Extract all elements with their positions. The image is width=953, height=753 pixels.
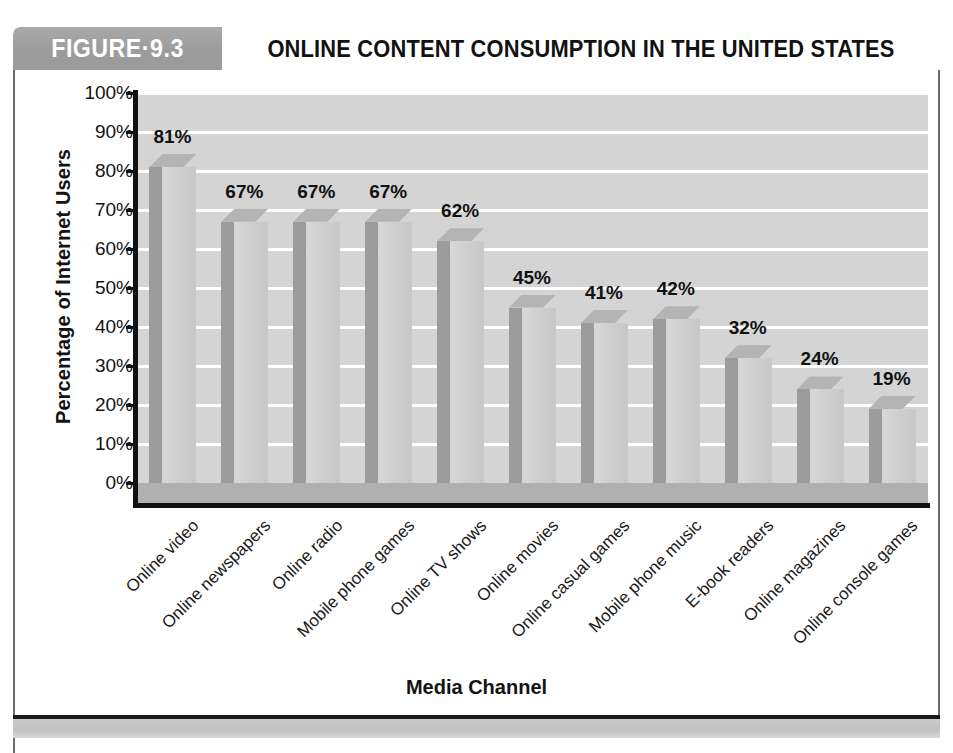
bar-top-face bbox=[221, 209, 268, 222]
bar-front-face bbox=[738, 358, 772, 483]
bar: 24% bbox=[797, 376, 844, 483]
bar-front-face bbox=[810, 389, 844, 483]
bar-value-label: 42% bbox=[639, 278, 713, 300]
y-axis-tick-labels: 100%90%80%70%60%50%40%30%20%10%0% bbox=[53, 70, 133, 715]
x-axis-title: Media Channel bbox=[13, 676, 940, 699]
bar-chart: Percentage of Internet Users 100%90%80%7… bbox=[13, 70, 940, 715]
bar-side-face bbox=[437, 241, 450, 483]
bar-value-label: 32% bbox=[711, 317, 785, 339]
bar-value-label: 67% bbox=[351, 181, 425, 203]
y-axis-tick-label: 0% bbox=[63, 472, 133, 494]
x-axis-category-labels: Online videoOnline newspapersOnline radi… bbox=[137, 510, 937, 690]
bar-side-face bbox=[221, 222, 234, 483]
x-axis-line bbox=[133, 503, 930, 508]
bar-value-label: 45% bbox=[495, 267, 569, 289]
bar-top-face bbox=[509, 295, 556, 308]
y-axis-tick-mark bbox=[126, 170, 134, 173]
y-axis-tick-label: 100% bbox=[63, 82, 133, 104]
bar: 32% bbox=[725, 345, 772, 483]
bar-top-face bbox=[437, 228, 484, 241]
bar-front-face bbox=[594, 323, 628, 483]
bar-front-face bbox=[666, 319, 700, 483]
bar-value-label: 19% bbox=[855, 368, 928, 390]
bar-top-face bbox=[149, 154, 196, 167]
bar: 67% bbox=[221, 209, 268, 483]
bar-value-label: 24% bbox=[783, 348, 857, 370]
x-axis-category-label: Online casual games bbox=[508, 516, 634, 642]
y-axis-tick-mark bbox=[126, 404, 134, 407]
bar-value-label: 67% bbox=[279, 181, 353, 203]
plot-floor bbox=[137, 483, 928, 505]
bar-top-face bbox=[725, 345, 772, 358]
y-axis-tick-mark bbox=[126, 287, 134, 290]
y-axis-tick-label: 70% bbox=[63, 199, 133, 221]
bar-top-face bbox=[581, 310, 628, 323]
y-axis-tick-label: 20% bbox=[63, 394, 133, 416]
figure-title: ONLINE CONTENT CONSUMPTION IN THE UNITED… bbox=[240, 27, 922, 70]
bar-front-face bbox=[378, 222, 412, 483]
y-axis-tick-mark bbox=[126, 443, 134, 446]
bar-front-face bbox=[450, 241, 484, 483]
bar: 62% bbox=[437, 228, 484, 483]
x-axis-category-label: Online radio bbox=[268, 516, 347, 595]
footer-band bbox=[13, 719, 940, 738]
bar-value-label: 41% bbox=[567, 282, 641, 304]
gridline bbox=[137, 131, 928, 134]
bar-side-face bbox=[149, 167, 162, 483]
bar-top-face bbox=[797, 376, 844, 389]
bar-side-face bbox=[869, 409, 882, 483]
bar-front-face bbox=[306, 222, 340, 483]
bar-side-face bbox=[797, 389, 810, 483]
y-axis-tick-mark bbox=[126, 92, 134, 95]
bar-value-label: 67% bbox=[207, 181, 281, 203]
bar-front-face bbox=[522, 308, 556, 484]
bar: 42% bbox=[653, 306, 700, 483]
footer-frame-tail bbox=[13, 738, 15, 753]
bar-side-face bbox=[365, 222, 378, 483]
y-axis-tick-label: 90% bbox=[63, 121, 133, 143]
gridline bbox=[137, 170, 928, 173]
bar: 41% bbox=[581, 310, 628, 483]
bar: 19% bbox=[869, 396, 916, 483]
y-axis-tick-mark bbox=[126, 131, 134, 134]
y-axis-tick-label: 10% bbox=[63, 433, 133, 455]
x-axis-category-label: Mobile phone games bbox=[293, 516, 419, 642]
plot-area: 81%67%67%67%62%45%41%42%32%24%19% bbox=[137, 93, 928, 505]
y-axis-tick-mark bbox=[126, 209, 134, 212]
bar-top-face bbox=[365, 209, 412, 222]
y-axis-tick-mark bbox=[126, 248, 134, 251]
figure-header: FIGURE·9.3 ONLINE CONTENT CONSUMPTION IN… bbox=[13, 27, 940, 70]
y-axis-tick-label: 30% bbox=[63, 355, 133, 377]
bar-side-face bbox=[293, 222, 306, 483]
y-axis-tick-mark bbox=[126, 326, 134, 329]
bar-side-face bbox=[653, 319, 666, 483]
y-axis-tick-mark bbox=[126, 365, 134, 368]
bar-top-face bbox=[869, 396, 916, 409]
bar: 81% bbox=[149, 154, 196, 483]
y-axis-tick-label: 60% bbox=[63, 238, 133, 260]
bar-front-face bbox=[234, 222, 268, 483]
gridline bbox=[137, 93, 928, 95]
y-axis-tick-label: 80% bbox=[63, 160, 133, 182]
figure-number-label: FIGURE·9.3 bbox=[20, 27, 214, 70]
bar-top-face bbox=[653, 306, 700, 319]
bar-front-face bbox=[882, 409, 916, 483]
bar-top-face bbox=[293, 209, 340, 222]
bar-side-face bbox=[509, 308, 522, 484]
bar: 67% bbox=[293, 209, 340, 483]
y-axis-tick-mark bbox=[126, 482, 134, 485]
x-axis-category-label: Online console games bbox=[789, 516, 922, 649]
bar-front-face bbox=[162, 167, 196, 483]
bar-value-label: 81% bbox=[137, 126, 209, 148]
bar: 45% bbox=[509, 295, 556, 484]
bar-value-label: 62% bbox=[423, 200, 497, 222]
bar-side-face bbox=[725, 358, 738, 483]
y-axis-tick-label: 50% bbox=[63, 277, 133, 299]
bar-side-face bbox=[581, 323, 594, 483]
bar: 67% bbox=[365, 209, 412, 483]
y-axis-tick-label: 40% bbox=[63, 316, 133, 338]
